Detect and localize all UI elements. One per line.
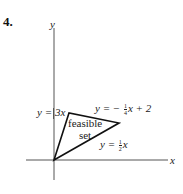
problem-number: 4.: [3, 14, 13, 30]
feasible-set-diagram: 4. y x y =3x y = − 14x + 2 y = 12x feasi…: [0, 0, 183, 194]
constraint-label-top: y = − 14x + 2: [95, 103, 151, 116]
fraction: 14: [124, 103, 127, 116]
constraint-label-bottom: y = 12x: [100, 139, 128, 152]
x-axis-label: x: [170, 155, 175, 166]
feasible-set-label: feasible set: [68, 117, 102, 141]
y-axis-label: y: [50, 19, 55, 30]
diagram-canvas: [0, 0, 183, 194]
fraction: 12: [119, 139, 122, 152]
constraint-label-steep: y =3x: [37, 107, 65, 119]
